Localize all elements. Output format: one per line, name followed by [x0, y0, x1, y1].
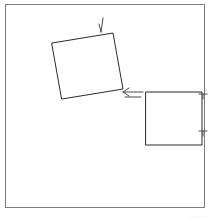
figure-drawing: [0, 0, 211, 219]
arrow-left-icon: [123, 88, 143, 97]
square-aligned[interactable]: [146, 92, 202, 145]
tick-right-icon-lower: [199, 131, 207, 136]
tick-right-icon-upper: [199, 94, 207, 99]
figure-caption: · · · · ·: [191, 213, 208, 219]
outer-frame: [6, 5, 205, 208]
figure-canvas: · · · · ·: [0, 0, 211, 219]
tick-arrow-icon: [99, 18, 103, 32]
square-rotated[interactable]: [52, 33, 123, 99]
